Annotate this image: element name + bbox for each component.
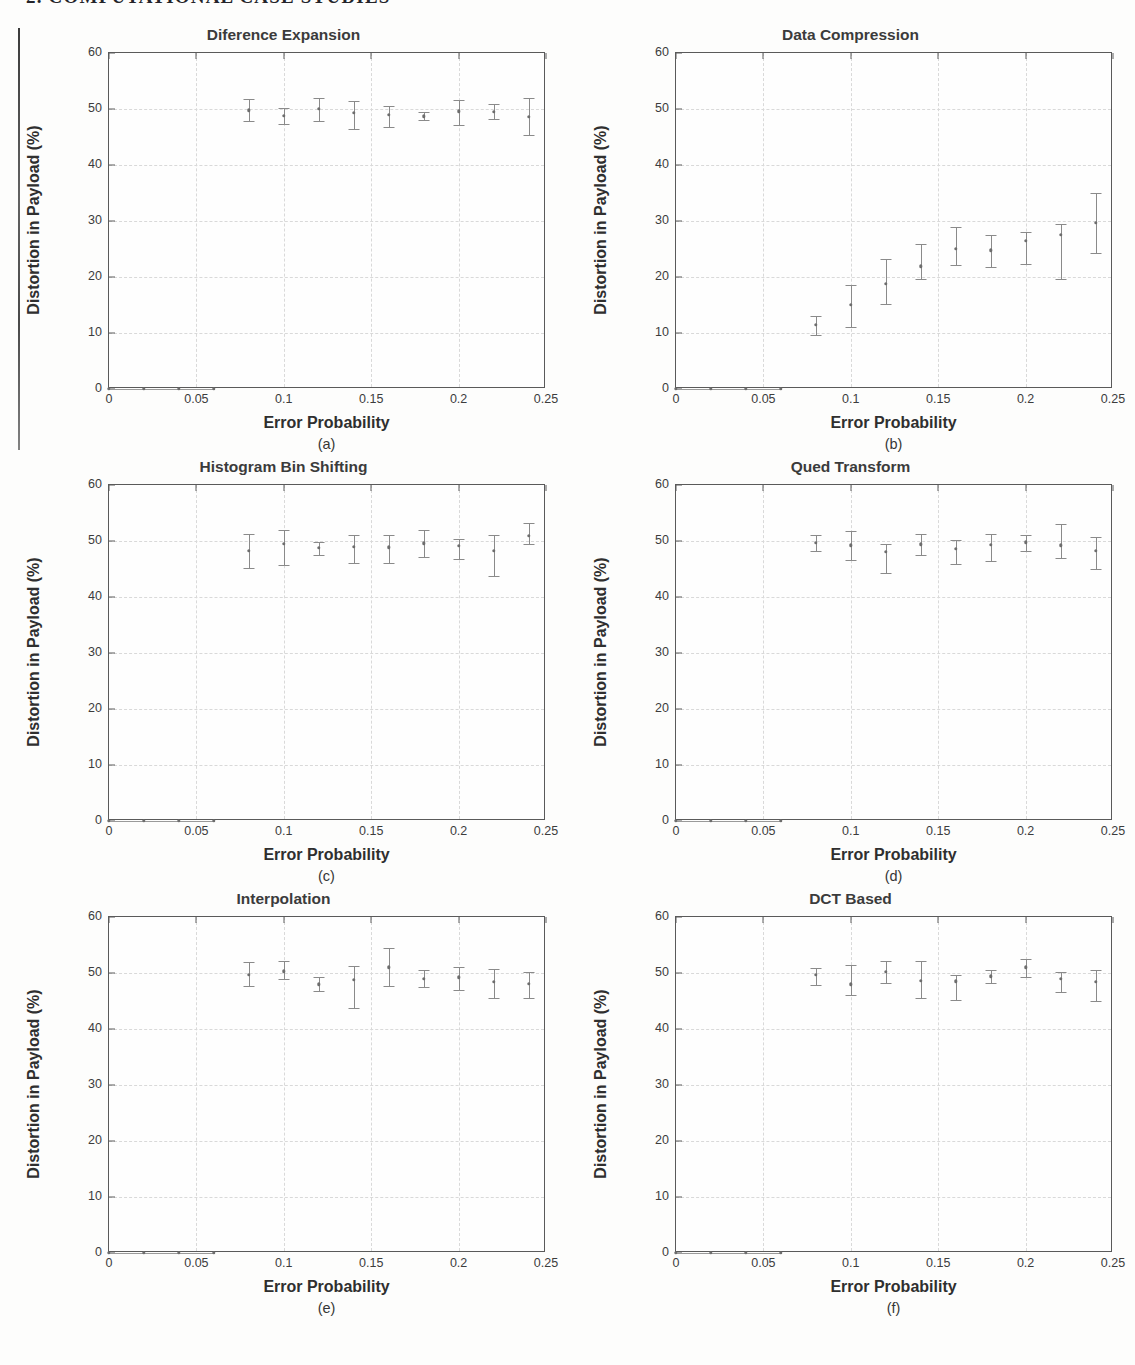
figure-panel-c: Histogram Bin ShiftingDistortion in Payl… [0, 454, 567, 886]
error-bar-cap [1055, 279, 1066, 280]
data-point [107, 387, 110, 390]
x-gridline [938, 485, 939, 819]
data-point [954, 547, 957, 550]
error-bar-cap [1090, 569, 1101, 570]
error-bar-cap [313, 121, 324, 122]
x-tick-label: 0.1 [842, 1256, 859, 1270]
y-tick-mark [676, 1141, 682, 1142]
x-gridline [1026, 53, 1027, 387]
zero-baseline [109, 389, 214, 390]
x-tick-label: 0.05 [751, 392, 775, 406]
error-bar-cap [523, 998, 534, 999]
error-bar-cap [845, 327, 856, 328]
data-point [674, 1251, 677, 1254]
y-tick-mark [109, 765, 115, 766]
error-bar-cap [810, 316, 821, 317]
error-bar-cap [243, 99, 254, 100]
data-point [849, 303, 852, 306]
data-point [422, 542, 425, 545]
figure-row-2: Histogram Bin ShiftingDistortion in Payl… [0, 454, 1135, 886]
subfigure-caption-c: (c) [108, 868, 545, 884]
error-bar-cap [313, 977, 324, 978]
error-bar-cap [523, 972, 534, 973]
data-point [709, 387, 712, 390]
data-point [422, 115, 425, 118]
y-gridline [109, 165, 544, 166]
data-point [177, 387, 180, 390]
y-tick-mark [676, 221, 682, 222]
y-tick-mark [676, 973, 682, 974]
x-tick-mark [196, 53, 197, 59]
error-bar-cap [1055, 524, 1066, 525]
y-tick-label: 0 [62, 1245, 102, 1259]
x-tick-mark [1025, 53, 1026, 59]
zero-baseline [676, 389, 781, 390]
error-bar-cap [985, 534, 996, 535]
y-tick-mark [676, 1197, 682, 1198]
error-bar-cap [348, 563, 359, 564]
data-point [107, 819, 110, 822]
error-bar-cap [453, 100, 464, 101]
error-bar-cap [1020, 232, 1031, 233]
plot-area-b: 00.050.10.150.20.25 [675, 52, 1112, 388]
x-tick-mark [546, 53, 547, 59]
x-tick-label: 0.25 [534, 392, 558, 406]
figure-panel-d: Qued TransformDistortion in Payload (%)0… [567, 454, 1134, 886]
y-tick-mark [109, 277, 115, 278]
x-tick-label: 0.15 [926, 1256, 950, 1270]
x-tick-label: 0 [673, 824, 680, 838]
y-tick-label: 50 [62, 965, 102, 979]
y-gridline [109, 1141, 544, 1142]
error-bar-cap [950, 1000, 961, 1001]
figure-panel-grid: Diference ExpansionDistortion in Payload… [0, 22, 1135, 1318]
x-gridline [851, 53, 852, 387]
y-gridline [676, 597, 1111, 598]
y-axis-title-d: Distortion in Payload (%) [592, 557, 610, 746]
error-bar-cap [383, 535, 394, 536]
error-bar-cap [348, 129, 359, 130]
data-point [1024, 540, 1027, 543]
error-bar [1096, 537, 1097, 569]
error-bar-cap [418, 970, 429, 971]
subfigure-caption-f: (f) [675, 1300, 1112, 1316]
data-point [142, 1251, 145, 1254]
y-tick-mark [109, 485, 115, 486]
y-tick-label: 30 [62, 213, 102, 227]
y-tick-label: 60 [62, 477, 102, 491]
error-bar-cap [488, 119, 499, 120]
x-axis-title-b: Error Probability [675, 414, 1112, 432]
y-tick-mark [109, 1197, 115, 1198]
error-bar-cap [1090, 193, 1101, 194]
x-tick-label: 0.1 [275, 1256, 292, 1270]
data-point [1094, 221, 1097, 224]
x-tick-label: 0 [673, 392, 680, 406]
error-bar-cap [845, 965, 856, 966]
error-bar [1061, 224, 1062, 279]
x-tick-label: 0.1 [842, 392, 859, 406]
x-tick-mark [676, 53, 677, 59]
data-point [849, 982, 852, 985]
error-bar-cap [313, 542, 324, 543]
y-gridline [109, 765, 544, 766]
error-bar-cap [488, 969, 499, 970]
error-bar-cap [278, 124, 289, 125]
error-bar-cap [810, 968, 821, 969]
y-axis-title-b: Distortion in Payload (%) [592, 125, 610, 314]
error-bar-cap [1090, 537, 1101, 538]
error-bar-cap [1055, 972, 1066, 973]
error-bar-cap [845, 560, 856, 561]
error-bar-cap [453, 990, 464, 991]
data-point [1059, 544, 1062, 547]
error-bar-cap [985, 235, 996, 236]
error-bar [529, 972, 530, 998]
error-bar-cap [880, 544, 891, 545]
x-tick-mark [109, 917, 110, 923]
y-tick-mark [109, 1029, 115, 1030]
y-tick-label: 60 [629, 909, 669, 923]
error-bar-cap [1020, 959, 1031, 960]
y-gridline [109, 221, 544, 222]
x-tick-label: 0.15 [359, 824, 383, 838]
data-point [352, 111, 355, 114]
error-bar-cap [278, 979, 289, 980]
error-bar-cap [1020, 535, 1031, 536]
